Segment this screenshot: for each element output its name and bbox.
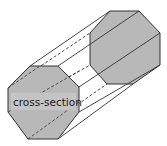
octagonal-prism-diagram: cross-section: [0, 0, 167, 146]
cross-section-label: cross-section: [13, 96, 82, 108]
